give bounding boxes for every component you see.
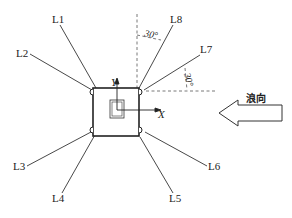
label-l7: L7	[200, 43, 213, 55]
label-l2: L2	[16, 47, 28, 59]
line-l2	[30, 54, 92, 90]
mooring-diagram: Y X L1 L2 L3 L4 L5 L6 L7 L8 30° 30° 浪向	[0, 0, 292, 218]
fairlead-ne	[139, 89, 142, 95]
line-l3	[27, 132, 91, 166]
fairlead-nw	[90, 89, 93, 95]
hull-body	[93, 88, 139, 136]
label-l1: L1	[52, 13, 64, 25]
fairlead-se	[139, 127, 142, 133]
line-l1	[60, 25, 96, 88]
line-l5	[140, 137, 173, 193]
x-axis-label: X	[157, 108, 166, 120]
label-l3: L3	[13, 160, 26, 172]
angle-label-upper: 30°	[143, 28, 159, 41]
angle-label-lower: 30°	[182, 71, 195, 88]
label-l8: L8	[170, 13, 183, 25]
label-l6: L6	[208, 160, 221, 172]
wave-direction-label: 浪向	[246, 92, 266, 104]
line-l4	[62, 133, 96, 193]
label-l5: L5	[169, 192, 182, 204]
fairlead-sw	[90, 127, 93, 133]
label-l4: L4	[52, 192, 65, 204]
